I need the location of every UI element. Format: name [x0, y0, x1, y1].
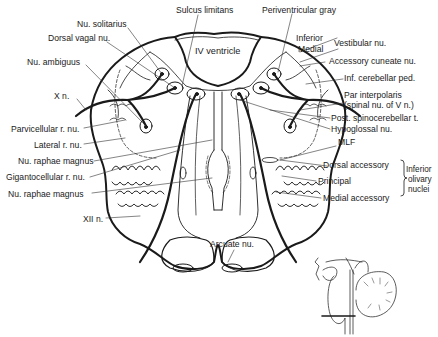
- label-spinal-nu-of-v: (spinal nu. of V n.): [344, 100, 414, 110]
- inset-cerebellum: [356, 272, 396, 317]
- label-medial-accessory: Medial accessory: [323, 193, 389, 203]
- label-inferior-olivary-line1: Inferior: [406, 165, 431, 174]
- inset-sagittal-brainstem: [315, 258, 396, 334]
- label-dorsal-vagal-nu: Dorsal vagal nu.: [48, 33, 110, 43]
- label-accessory-cuneate-nu: Accessory cuneate nu.: [329, 56, 416, 66]
- midline-raphe: [208, 92, 229, 210]
- label-lateral-r-nu: Lateral r. nu.: [34, 140, 82, 150]
- label-parvicellular-r-nu: Parvicellular r. nu.: [11, 124, 79, 134]
- inferior-olive-left: [112, 166, 164, 207]
- label-mlf: MLF: [338, 137, 355, 147]
- label-nu-raphae-magnus-2: Nu. raphae magnus: [8, 189, 83, 199]
- label-nu-ambiguus: Nu. ambiguus: [27, 57, 80, 67]
- label-principal: Principal: [318, 176, 351, 186]
- label-xii-n: XII n.: [83, 214, 103, 224]
- label-arcuate-nu: Arcuate nu.: [210, 239, 254, 249]
- label-hypoglossal-nu: Hypoglossal nu.: [331, 124, 392, 134]
- label-post-spinocerebellar-t: Post. spinocerebellar t.: [331, 113, 418, 123]
- label-gigantocellular-r-nu: Gigantocellular r. nu.: [6, 172, 85, 182]
- label-vestibular-nu: Vestibular nu.: [334, 38, 386, 48]
- label-par-interpolaris: Par interpolaris: [344, 90, 402, 100]
- label-periventricular-gray: Periventricular gray: [262, 5, 336, 15]
- label-sulcus-limitans: Sulcus limitans: [176, 5, 233, 15]
- label-nu-raphae-magnus-1: Nu. raphae magnus: [18, 156, 93, 166]
- label-x-n: X n.: [54, 91, 69, 101]
- medulla-diagram: Sulcus limitans Periventricular gray IV …: [0, 0, 438, 337]
- label-vestibular-medial: Medial: [298, 44, 323, 54]
- label-dorsal-accessory: Dorsal accessory: [323, 160, 389, 170]
- label-nu-solitarius: Nu. solitarius: [77, 19, 127, 29]
- label-vestibular-inferior: Inferior: [296, 33, 323, 43]
- label-iv-ventricle: IV ventricle: [195, 46, 240, 56]
- label-inferior-olivary-line2: olivary: [408, 175, 432, 184]
- label-inf-cerebellar-ped: Inf. cerebellar ped.: [344, 73, 415, 83]
- label-inferior-olivary-line3: nuclei: [408, 185, 429, 194]
- inferior-olive-right: [272, 166, 324, 207]
